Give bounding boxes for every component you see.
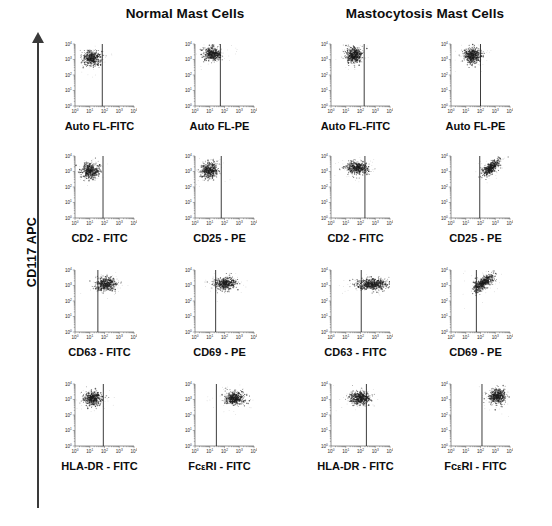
svg-text:103: 103 xyxy=(372,448,379,454)
svg-text:104: 104 xyxy=(185,41,192,47)
plot-area: 100100101101102102103103104104 xyxy=(438,152,513,230)
svg-text:101: 101 xyxy=(342,448,349,454)
svg-text:103: 103 xyxy=(236,448,243,454)
svg-text:101: 101 xyxy=(86,220,93,226)
plot-area: 100100101101102102103103104104 xyxy=(182,380,257,458)
svg-text:100: 100 xyxy=(321,215,328,221)
svg-text:103: 103 xyxy=(492,220,499,226)
svg-text:102: 102 xyxy=(357,220,364,226)
svg-text:102: 102 xyxy=(477,220,484,226)
panel-x-axis-label: CD69 - PE xyxy=(424,346,527,358)
svg-text:102: 102 xyxy=(101,108,108,114)
dot-plot-canvas: 100100101101102102103103104104 xyxy=(438,380,513,458)
plot-area: 100100101101102102103103104104 xyxy=(318,40,393,118)
svg-text:101: 101 xyxy=(321,87,328,93)
plot-area: 100100101101102102103103104104 xyxy=(438,380,513,458)
svg-text:100: 100 xyxy=(441,443,448,449)
svg-text:102: 102 xyxy=(477,448,484,454)
svg-text:103: 103 xyxy=(236,220,243,226)
panel-x-axis-label: FcεRI - FITC xyxy=(168,460,271,472)
svg-text:103: 103 xyxy=(321,168,328,174)
panel-x-axis-label: CD69 - PE xyxy=(168,346,271,358)
dot-plot-canvas: 100100101101102102103103104104 xyxy=(62,152,137,230)
svg-text:101: 101 xyxy=(462,334,469,340)
event-cloud xyxy=(196,44,238,70)
svg-text:104: 104 xyxy=(131,448,137,454)
svg-text:100: 100 xyxy=(65,329,72,335)
svg-text:104: 104 xyxy=(387,448,393,454)
svg-text:101: 101 xyxy=(185,313,192,319)
svg-text:100: 100 xyxy=(328,108,335,114)
svg-text:102: 102 xyxy=(221,108,228,114)
svg-text:103: 103 xyxy=(372,108,379,114)
svg-text:104: 104 xyxy=(185,267,192,273)
svg-text:103: 103 xyxy=(372,334,379,340)
svg-text:100: 100 xyxy=(441,329,448,335)
dot-plot-canvas: 100100101101102102103103104104 xyxy=(182,40,257,118)
panel-x-axis-label: HLA-DR - FITC xyxy=(48,460,151,472)
panel-x-axis-label: CD63 - FITC xyxy=(48,346,151,358)
svg-text:104: 104 xyxy=(131,334,137,340)
event-cloud xyxy=(333,385,378,411)
svg-text:101: 101 xyxy=(206,448,213,454)
svg-text:104: 104 xyxy=(507,448,513,454)
svg-text:101: 101 xyxy=(206,108,213,114)
svg-text:102: 102 xyxy=(441,72,448,78)
panel-x-axis-label: Auto FL-FITC xyxy=(48,120,151,132)
svg-text:101: 101 xyxy=(65,313,72,319)
plot-area: 100100101101102102103103104104 xyxy=(318,380,393,458)
panel-x-axis-label: CD63 - FITC xyxy=(304,346,407,358)
dot-plot-canvas: 100100101101102102103103104104 xyxy=(62,40,137,118)
svg-text:102: 102 xyxy=(441,184,448,190)
plot-area: 100100101101102102103103104104 xyxy=(62,152,137,230)
svg-text:101: 101 xyxy=(65,199,72,205)
svg-text:100: 100 xyxy=(185,215,192,221)
svg-text:104: 104 xyxy=(251,448,257,454)
plot-area: 100100101101102102103103104104 xyxy=(182,152,257,230)
svg-text:102: 102 xyxy=(101,334,108,340)
svg-text:101: 101 xyxy=(65,87,72,93)
svg-text:103: 103 xyxy=(185,56,192,62)
svg-text:102: 102 xyxy=(477,108,484,114)
dot-plot-canvas: 100100101101102102103103104104 xyxy=(182,266,257,344)
svg-text:101: 101 xyxy=(321,313,328,319)
svg-text:100: 100 xyxy=(328,220,335,226)
svg-text:104: 104 xyxy=(185,153,192,159)
svg-text:102: 102 xyxy=(65,72,72,78)
panel-x-axis-label: HLA-DR - FITC xyxy=(304,460,407,472)
svg-text:100: 100 xyxy=(321,443,328,449)
svg-text:104: 104 xyxy=(65,267,72,273)
svg-text:101: 101 xyxy=(86,448,93,454)
svg-text:104: 104 xyxy=(251,220,257,226)
svg-text:103: 103 xyxy=(116,334,123,340)
svg-text:100: 100 xyxy=(328,448,335,454)
svg-text:101: 101 xyxy=(185,427,192,433)
svg-text:103: 103 xyxy=(441,282,448,288)
y-axis-label: CD117 APC xyxy=(25,182,39,322)
svg-text:102: 102 xyxy=(65,298,72,304)
svg-text:100: 100 xyxy=(192,334,199,340)
svg-text:103: 103 xyxy=(116,108,123,114)
svg-text:104: 104 xyxy=(185,381,192,387)
svg-text:101: 101 xyxy=(86,334,93,340)
flow-cytometry-figure: CD117 APC Normal Mast Cells Mastocytosis… xyxy=(0,0,552,526)
svg-text:100: 100 xyxy=(185,103,192,109)
svg-text:100: 100 xyxy=(448,334,455,340)
svg-text:103: 103 xyxy=(441,168,448,174)
svg-text:100: 100 xyxy=(65,443,72,449)
svg-text:100: 100 xyxy=(321,103,328,109)
dot-plot-canvas: 100100101101102102103103104104 xyxy=(182,380,257,458)
svg-text:104: 104 xyxy=(321,41,328,47)
svg-text:103: 103 xyxy=(492,334,499,340)
group-title-mastocytosis: Mastocytosis Mast Cells xyxy=(300,6,550,21)
svg-text:100: 100 xyxy=(448,220,455,226)
svg-text:101: 101 xyxy=(321,427,328,433)
event-cloud xyxy=(80,272,128,299)
svg-text:100: 100 xyxy=(185,329,192,335)
svg-text:103: 103 xyxy=(492,108,499,114)
svg-text:100: 100 xyxy=(192,220,199,226)
svg-text:103: 103 xyxy=(65,168,72,174)
svg-text:102: 102 xyxy=(221,334,228,340)
svg-text:104: 104 xyxy=(65,381,72,387)
panel-x-axis-label: FcεRI - FITC xyxy=(424,460,527,472)
